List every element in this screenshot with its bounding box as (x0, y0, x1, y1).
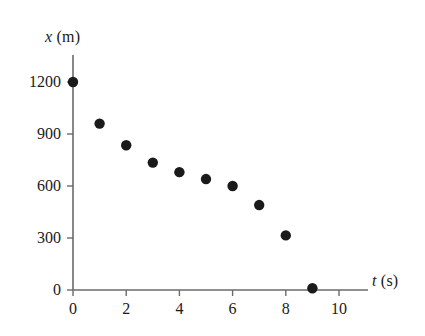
y-axis-tick-label: 600 (0, 177, 61, 195)
y-axis-ticks (67, 82, 73, 290)
plot-canvas (0, 0, 425, 336)
x-axis-unit: (s) (381, 272, 398, 289)
y-axis-title: x (m) (45, 28, 80, 46)
data-points (68, 77, 318, 294)
y-axis-tick-label: 900 (0, 125, 61, 143)
data-point (227, 181, 237, 191)
data-point (121, 140, 131, 150)
x-axis-title: t (s) (372, 272, 398, 290)
x-axis-tick-label: 2 (122, 300, 130, 318)
x-axis-tick-label: 10 (331, 300, 347, 318)
x-axis-ticks (73, 290, 339, 296)
y-axis-tick-label: 1200 (0, 73, 61, 91)
data-point (281, 230, 291, 240)
data-point (201, 174, 211, 184)
x-axis-tick-label: 0 (69, 300, 77, 318)
data-point (254, 200, 264, 210)
data-point (174, 167, 184, 177)
y-axis-tick-label: 300 (0, 229, 61, 247)
x-axis-tick-label: 8 (282, 300, 290, 318)
y-axis-tick-label: 0 (0, 281, 61, 299)
scatter-plot-figure: x (m) t (s) 03006009001200 0246810 (0, 0, 425, 336)
data-point (68, 77, 78, 87)
y-axis-unit: (m) (57, 28, 81, 45)
x-axis-tick-label: 4 (175, 300, 183, 318)
data-point (94, 118, 104, 128)
axes (73, 55, 368, 290)
data-point (148, 157, 158, 167)
data-point (307, 283, 317, 293)
x-axis-tick-label: 6 (229, 300, 237, 318)
